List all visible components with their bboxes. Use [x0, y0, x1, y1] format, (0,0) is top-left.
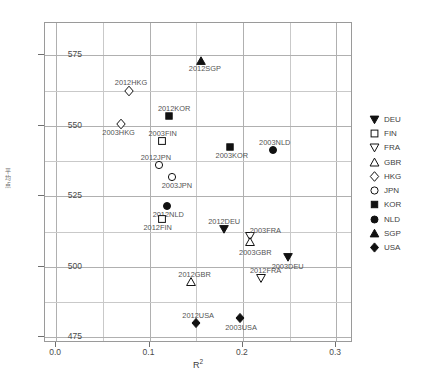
y-axis-label: 平均点 [2, 168, 14, 189]
legend-item-nld[interactable]: NLD [368, 212, 438, 226]
legend-item-sgp[interactable]: SGP [368, 226, 438, 240]
data-point-label: 2012HKG [115, 78, 147, 87]
legend-item-label: JPN [384, 186, 399, 195]
data-point-label: 2003USA [225, 323, 257, 332]
square-open-icon [368, 127, 381, 140]
data-point-label: 2003GBR [239, 248, 271, 257]
y-tick-label: 500 [42, 261, 82, 271]
x-tick-label: 0.2 [217, 347, 267, 357]
legend-item-fra[interactable]: FRA [368, 141, 438, 155]
gridline-horizontal [45, 267, 351, 268]
gridline-horizontal [45, 196, 351, 197]
legend-item-kor[interactable]: KOR [368, 198, 438, 212]
scatter-plot-figure: 2012SGP2012HKG2012KOR2003HKG2003FIN2003K… [0, 0, 438, 388]
data-point-label: 2012KOR [158, 104, 190, 113]
y-tick-label: 475 [42, 331, 82, 341]
y-tick-mark [38, 54, 44, 55]
diamond-filled-icon [368, 241, 381, 254]
data-point-label: 2012FIN [143, 223, 171, 232]
y-tick-mark [38, 266, 44, 267]
gridline-horizontal [45, 302, 351, 303]
legend-item-fin[interactable]: FIN [368, 126, 438, 140]
legend-item-label: NLD [384, 215, 400, 224]
circle-filled-icon [368, 213, 381, 226]
gridline-horizontal [45, 337, 351, 338]
gridline-horizontal [45, 232, 351, 233]
legend-item-label: GBR [384, 158, 401, 167]
y-tick-label: 575 [42, 49, 82, 59]
legend-item-label: DEU [384, 115, 401, 124]
data-point-label: 2012GBR [178, 270, 210, 279]
gridline-horizontal [45, 126, 351, 127]
legend-item-jpn[interactable]: JPN [368, 183, 438, 197]
triangle-up-filled-icon [368, 227, 381, 240]
x-axis-label: R2 [0, 358, 396, 370]
y-tick-mark [38, 195, 44, 196]
gridline-vertical [336, 23, 337, 341]
data-point-label: 2012SGP [189, 64, 221, 73]
gridline-horizontal [45, 161, 351, 162]
legend-item-label: HKG [384, 172, 401, 181]
data-point-label: 2003JPN [162, 181, 192, 190]
data-point-label: 2012FRA [250, 266, 281, 275]
triangle-down-filled-icon [368, 113, 381, 126]
legend-item-hkg[interactable]: HKG [368, 169, 438, 183]
data-point-label: 2012DEU [208, 217, 240, 226]
diamond-open-icon [368, 170, 381, 183]
data-point-label: 2003FIN [148, 129, 176, 138]
triangle-down-open-icon [368, 141, 381, 154]
gridline-vertical [290, 23, 291, 341]
gridline-horizontal [45, 91, 351, 92]
data-point-label: 2003NLD [259, 138, 290, 147]
circle-open-icon [368, 184, 381, 197]
x-tick-mark [55, 342, 56, 347]
legend-item-usa[interactable]: USA [368, 241, 438, 255]
data-point-label: 2003FRA [250, 226, 281, 235]
y-tick-mark [38, 336, 44, 337]
gridline-vertical [243, 23, 244, 341]
x-tick-mark [242, 342, 243, 347]
legend-item-label: FIN [384, 129, 397, 138]
x-tick-mark [335, 342, 336, 347]
gridline-vertical [103, 23, 104, 341]
plot-area: 2012SGP2012HKG2012KOR2003HKG2003FIN2003K… [44, 22, 352, 342]
legend-item-label: FRA [384, 143, 400, 152]
legend-item-deu[interactable]: DEU [368, 112, 438, 126]
legend-item-gbr[interactable]: GBR [368, 155, 438, 169]
data-point-label: 2003HKG [102, 128, 134, 137]
data-point-label: 2003KOR [216, 151, 248, 160]
gridline-vertical [56, 23, 57, 341]
gridline-vertical [150, 23, 151, 341]
triangle-up-open-icon [368, 156, 381, 169]
x-tick-mark [149, 342, 150, 347]
y-tick-mark [38, 125, 44, 126]
x-tick-label: 0.1 [124, 347, 174, 357]
legend: DEUFINFRAGBRHKGJPNKORNLDSGPUSA [368, 112, 438, 255]
legend-item-label: USA [384, 243, 400, 252]
data-point-label: 2012JPN [141, 153, 171, 162]
square-filled-icon [368, 198, 381, 211]
y-tick-label: 525 [42, 190, 82, 200]
x-tick-label: 0.3 [310, 347, 360, 357]
legend-item-label: SGP [384, 229, 401, 238]
legend-item-label: KOR [384, 200, 401, 209]
x-tick-label: 0.0 [30, 347, 80, 357]
data-point-label: 2012USA [182, 311, 214, 320]
y-tick-label: 550 [42, 120, 82, 130]
